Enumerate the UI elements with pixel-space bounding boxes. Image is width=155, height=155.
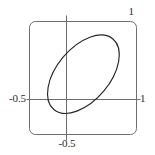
plot-canvas xyxy=(0,0,155,155)
y-axis-bottom-tick-label: -0.5 xyxy=(41,138,93,149)
plot-frame xyxy=(30,22,137,135)
x-axis-right-tick-label: 1 xyxy=(140,93,145,104)
ellipse-curve xyxy=(34,22,134,127)
ellipse-curve-group xyxy=(34,22,134,127)
y-axis-top-tick-label: 1 xyxy=(0,6,134,17)
ellipse-plot-figure: 1 -0.5 1 -0.5 xyxy=(0,0,155,155)
x-axis-left-tick-label: -0.5 xyxy=(0,93,26,104)
